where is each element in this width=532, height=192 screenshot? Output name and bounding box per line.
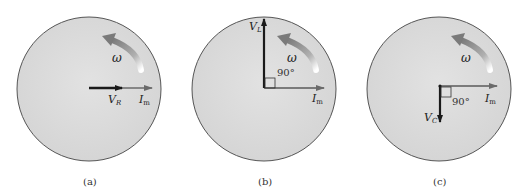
panel-caption: (a) — [83, 176, 97, 187]
omega-label: ω — [287, 51, 297, 65]
panel-a: ω VR Im (a) — [17, 17, 161, 187]
panel-caption: (b) — [258, 176, 272, 187]
phasor-diagrams: ω VR Im (a) ω 90° VL Im (b) ω 90° — [0, 0, 532, 192]
panel-caption: (c) — [433, 176, 447, 187]
angle-label: 90° — [277, 67, 295, 78]
omega-label: ω — [461, 51, 471, 65]
panel-b: ω 90° VL Im (b) — [192, 17, 336, 187]
angle-label: 90° — [452, 96, 470, 107]
omega-label: ω — [112, 51, 122, 65]
panel-c: ω 90° VC Im (c) — [367, 17, 511, 187]
